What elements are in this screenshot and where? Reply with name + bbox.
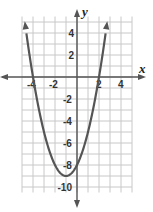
y-tick-label: -4 <box>63 116 72 127</box>
y-tick-label: -8 <box>63 160 72 171</box>
x-axis-left-arrow-icon <box>0 74 8 80</box>
y-tick-label: -6 <box>63 138 72 149</box>
y-axis-label: y <box>80 4 88 19</box>
curve-arrow-icon <box>103 21 109 29</box>
curve-arrow-icon <box>23 21 29 29</box>
y-tick-label: 4 <box>69 28 75 39</box>
y-axis-up-arrow-icon <box>74 9 80 17</box>
y-tick-label: -10 <box>58 182 73 193</box>
y-tick-label: 2 <box>69 50 75 61</box>
y-tick-label: -2 <box>63 94 72 105</box>
x-axis-label: x <box>138 61 146 76</box>
y-axis-down-arrow-icon <box>74 200 80 208</box>
x-tick-label: 4 <box>118 79 124 90</box>
x-tick-label: -2 <box>49 79 58 90</box>
parabola-graph: x y -4-22442-2-4-6-8-10 <box>0 0 153 212</box>
